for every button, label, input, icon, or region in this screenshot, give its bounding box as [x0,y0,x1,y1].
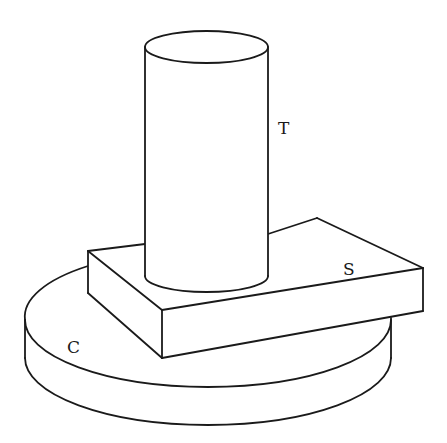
cylinder-t [145,31,268,292]
diagram-stage: T S C [0,0,447,443]
label-s: S [343,261,355,278]
stacked-solids-diagram [0,0,447,443]
label-c: C [67,339,80,356]
label-t: T [278,120,289,137]
